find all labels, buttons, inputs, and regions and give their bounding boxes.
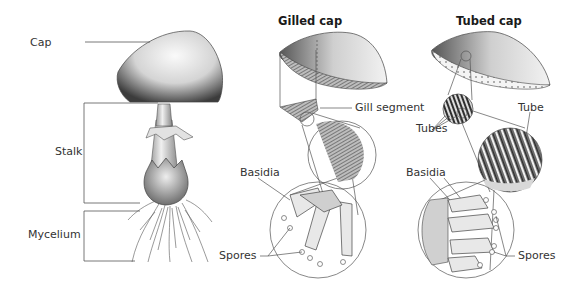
label-spores-tubed: Spores [518,250,555,261]
label-basidia-gilled: Basidia [240,167,280,178]
basidia-tubed [448,195,494,272]
label-basidia-tubed: Basidia [406,167,446,178]
mushroom-anatomy-diagram: Cap Stalk Mycelium Gilled cap Gill segme… [0,0,578,287]
diagram-illustration [0,0,578,287]
label-mycelium: Mycelium [28,229,81,240]
label-stalk: Stalk [55,146,82,157]
label-cap: Cap [30,37,51,48]
volva [144,158,188,205]
basidia-gilled [290,188,352,256]
label-tubes: Tubes [416,123,448,134]
label-gill-segment: Gill segment [355,102,424,113]
label-tube: Tube [518,102,544,113]
gilled-cap-illustration [258,32,387,278]
tubes-closeup [443,94,473,124]
label-spores-gilled: Spores [219,250,256,261]
tubed-cap-illustration [418,32,550,278]
title-tubed-cap: Tubed cap [456,16,522,28]
mycelium-roots [128,200,212,262]
title-gilled-cap: Gilled cap [278,16,342,28]
whole-mushroom-illustration [117,31,222,262]
